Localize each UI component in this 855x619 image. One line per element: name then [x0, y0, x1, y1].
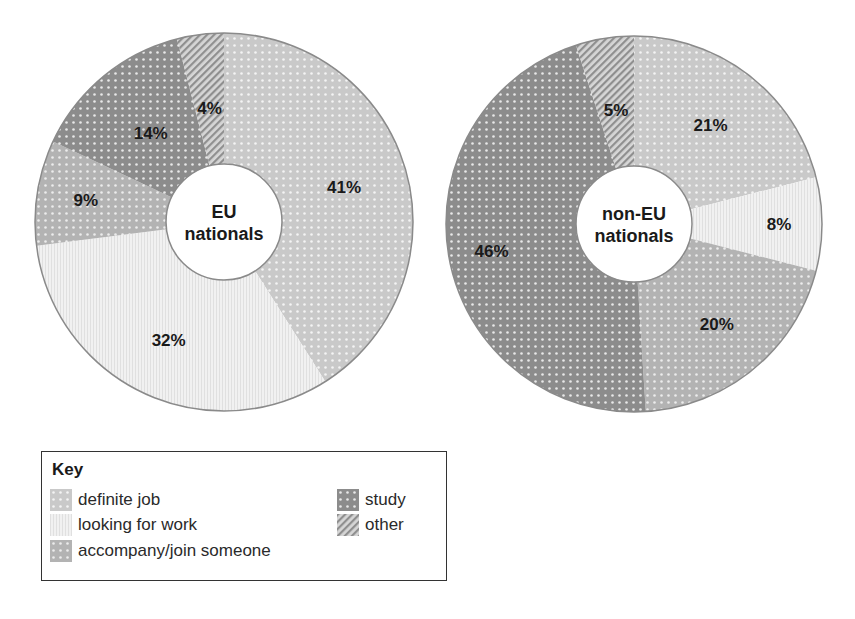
pie-eu-nationals: 41%32%9%14%4%EUnationals — [35, 33, 413, 411]
slice-value-label: 21% — [694, 116, 728, 135]
legend-item-study: study — [337, 489, 406, 511]
slice-value-label: 8% — [767, 215, 792, 234]
pie-non-eu-nationals: 21%8%20%46%5%non-EUnationals — [446, 36, 822, 412]
slice-value-label: 4% — [197, 99, 222, 118]
center-label: EU — [211, 202, 236, 222]
legend-key: Key definite job looking for work accomp… — [41, 451, 447, 581]
legend-item-other: other — [337, 514, 404, 536]
center-hole — [576, 166, 692, 282]
slice-value-label: 46% — [475, 242, 509, 261]
accompany-swatch-icon — [50, 540, 72, 562]
legend-title: Key — [52, 460, 83, 480]
slice-value-label: 5% — [604, 101, 629, 120]
slice-value-label: 9% — [73, 191, 98, 210]
center-label: nationals — [184, 224, 263, 244]
definite-job-swatch-icon — [50, 489, 72, 511]
slice-value-label: 14% — [134, 124, 168, 143]
slice-value-label: 20% — [700, 315, 734, 334]
slice-value-label: 41% — [327, 178, 361, 197]
looking-for-work-swatch-icon — [50, 514, 72, 536]
center-hole — [166, 164, 282, 280]
pie-charts: 41%32%9%14%4%EUnationals 21%8%20%46%5%no… — [0, 0, 855, 430]
slice-value-label: 32% — [152, 331, 186, 350]
legend-item-accompany: accompany/join someone — [50, 540, 271, 562]
center-label: nationals — [594, 226, 673, 246]
legend-item-looking-for-work: looking for work — [50, 514, 197, 536]
center-label: non-EU — [602, 204, 666, 224]
legend-item-definite-job: definite job — [50, 489, 160, 511]
study-swatch-icon — [337, 489, 359, 511]
other-swatch-icon — [337, 514, 359, 536]
